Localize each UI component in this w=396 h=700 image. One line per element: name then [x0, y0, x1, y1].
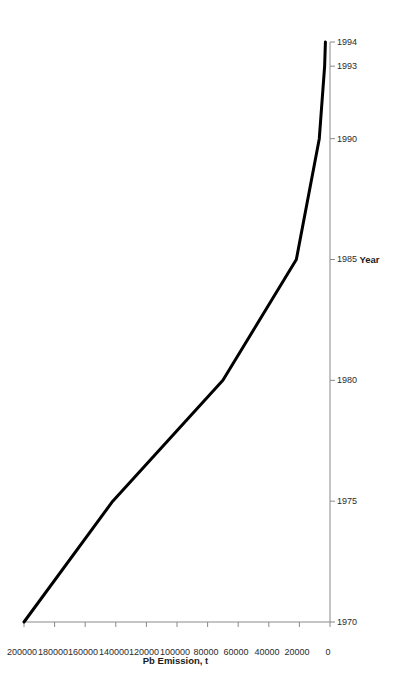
y-axis-title: Pb Emission, t	[126, 655, 226, 666]
y-axis-ticks	[24, 622, 330, 627]
x-axis-ticks	[330, 42, 335, 622]
x-axis-tick-label: 1975	[335, 496, 359, 506]
data-series-line	[24, 42, 325, 622]
x-axis-title: Year	[350, 254, 390, 265]
x-axis-tick-label: 1970	[335, 617, 359, 627]
chart-plot-area	[0, 0, 396, 700]
x-axis-tick-label: 1993	[335, 61, 359, 71]
x-axis-tick-label: 1980	[335, 375, 359, 385]
x-axis-tick-label: 1994	[335, 37, 359, 47]
chart-container: 1970197519801985199019931994 02000040000…	[0, 0, 396, 700]
x-axis-tick-label: 1990	[335, 134, 359, 144]
y-axis-tick-label: 200000	[0, 647, 44, 657]
chart-figure: 1970197519801985199019931994 02000040000…	[0, 0, 396, 700]
